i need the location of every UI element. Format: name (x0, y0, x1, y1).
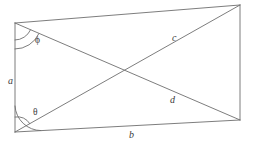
phi-angle-arc-inner (15, 30, 31, 40)
diagonal-upper-line (15, 5, 240, 132)
angle-label-theta: θ (33, 108, 38, 118)
side-label-a: a (8, 76, 13, 86)
diagonal-label-c: c (172, 33, 176, 43)
side-label-b: b (129, 130, 134, 140)
geometry-figure: a b c d ϕ θ (0, 0, 253, 143)
rectangle-bottom-edge (15, 120, 240, 132)
figure-canvas (0, 0, 253, 143)
diagonal-label-d: d (170, 95, 175, 105)
diagonal-lower-line (15, 23, 240, 120)
rectangle-top-edge (15, 5, 240, 23)
angle-label-phi: ϕ (35, 36, 40, 46)
